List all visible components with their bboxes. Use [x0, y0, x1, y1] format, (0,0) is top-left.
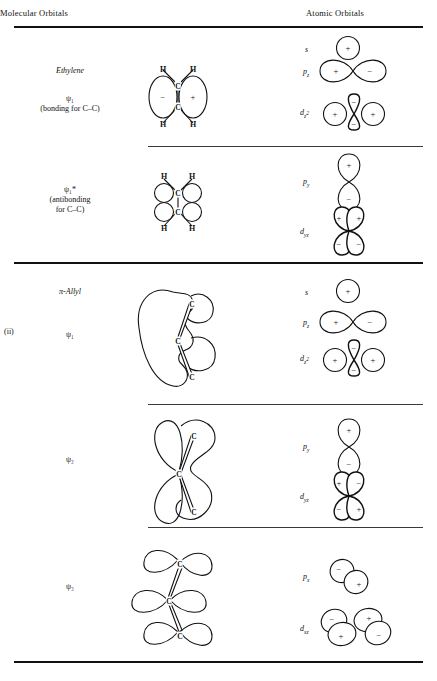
- row-ethylene-psi-label: ψ₁: [14, 94, 126, 105]
- rule-bottom: [14, 661, 423, 663]
- rule-section-ii: [14, 262, 423, 264]
- ao-subscript: xz: [304, 629, 309, 635]
- row-ethylene-psi-sublabel: (bonding for C–C): [8, 104, 132, 115]
- mo-allyl-psi1-diagram: C C C: [133, 278, 223, 396]
- ao-label-dxz: dxz: [300, 624, 309, 635]
- ao-dyz-orbital: + − − +: [320, 471, 378, 521]
- atom-label-h: H: [190, 120, 196, 129]
- ao-subscript: z2: [304, 359, 309, 365]
- orbital-sign: +: [357, 580, 362, 589]
- atom-label-c: C: [177, 560, 183, 569]
- row-ethylene-title: Ethylene: [30, 66, 110, 77]
- orbital-sign: −: [352, 366, 357, 375]
- orbital-sign: −: [352, 120, 357, 129]
- orbital-sign: −: [368, 67, 373, 76]
- ao-label-py: py: [303, 177, 309, 188]
- ao-label-pz: pz: [303, 318, 309, 329]
- ao-subscript: z2: [304, 113, 309, 119]
- orbital-sign: −: [357, 240, 362, 249]
- atom-label-h: H: [189, 224, 195, 233]
- ao-label-px: px: [303, 572, 309, 583]
- orbital-sign: −: [337, 240, 342, 249]
- section-marker: (ii): [4, 327, 14, 338]
- ao-label-s: s: [305, 45, 308, 54]
- ao-py-orbital: + −: [327, 152, 371, 212]
- rule-top: [14, 26, 423, 28]
- orbital-sign: +: [334, 67, 339, 76]
- atom-label-c: C: [191, 508, 197, 517]
- orbital-sign: −: [368, 318, 373, 327]
- ao-subscript: z: [307, 72, 309, 78]
- ao-px-orbital: − +: [322, 556, 378, 598]
- atom-label-h: H: [189, 172, 195, 181]
- atom-label-c: C: [176, 470, 182, 479]
- rule-row3-row4: [148, 404, 423, 405]
- orbital-sign: −: [352, 98, 357, 107]
- orbital-sign: −: [352, 344, 357, 353]
- orbital-sign: +: [334, 318, 339, 327]
- orbital-sign: +: [371, 356, 376, 365]
- column-headers: Molecular Orbitals Atomic Orbitals: [0, 8, 437, 24]
- atom-label-c: C: [175, 103, 181, 112]
- row-allyl-title: π-Allyl: [30, 287, 110, 298]
- ao-pz-orbital: + −: [318, 309, 388, 335]
- atom-label-c: C: [166, 597, 172, 606]
- orbital-sign: +: [339, 632, 344, 641]
- atom-label-c: C: [175, 208, 181, 217]
- atom-label-c: C: [189, 300, 195, 309]
- ao-label-py: py: [303, 442, 309, 453]
- ao-name: s: [305, 45, 308, 54]
- orbital-sign: −: [347, 460, 352, 469]
- row-allyl-psi1-label: ψ₁: [30, 330, 110, 341]
- atom-label-h: H: [161, 172, 167, 181]
- ao-label-dyz: dyz: [300, 227, 309, 238]
- orbital-sign: +: [337, 479, 342, 488]
- mo-ethylene-psi1-star-diagram: H H C C H H: [145, 166, 211, 238]
- orbital-sign: −: [377, 631, 382, 640]
- ao-py-orbital: + −: [327, 417, 371, 477]
- atom-label-c: C: [175, 82, 181, 91]
- orbital-sign: +: [337, 214, 342, 223]
- ao-subscript: x: [307, 577, 309, 583]
- ao-subscript: y: [307, 447, 309, 453]
- row-ethylene-star-sublabel-2: for C–C): [14, 205, 126, 216]
- ao-pz-orbital: + −: [318, 58, 388, 84]
- ao-dyz-orbital: + + − −: [320, 206, 378, 256]
- row-ethylene-star-psi-label: ψ₁*: [14, 185, 126, 196]
- orbital-sign: +: [333, 356, 338, 365]
- rule-row1-row2: [148, 146, 423, 147]
- atom-label-c: C: [175, 189, 181, 198]
- orbital-sign: +: [191, 93, 196, 102]
- row-ethylene-star-sublabel-1: (antibonding: [14, 195, 126, 206]
- ao-subscript: yz: [304, 232, 309, 238]
- orbital-sign: +: [347, 426, 352, 435]
- orbital-sign: −: [161, 93, 166, 102]
- atom-label-c: C: [191, 432, 197, 441]
- mo-ethylene-psi1-diagram: H H C C H H − +: [143, 58, 213, 136]
- ao-subscript: yz: [304, 497, 309, 503]
- ao-subscript: z: [307, 323, 309, 329]
- atom-label-c: C: [189, 373, 195, 382]
- orbital-sign: +: [357, 214, 362, 223]
- atom-label-c: C: [175, 337, 181, 346]
- ao-dz2-orbital: + − + −: [318, 96, 390, 126]
- ao-label-dz2: dz2: [300, 108, 309, 119]
- row-allyl-psi3-label: ψ₃: [30, 582, 110, 593]
- atom-label-h: H: [160, 120, 166, 129]
- orbital-sign: +: [347, 161, 352, 170]
- orbital-sign: +: [346, 44, 351, 53]
- ao-label-dyz: dyz: [300, 492, 309, 503]
- ao-s-orbital: +: [325, 36, 371, 60]
- atom-label-h: H: [160, 65, 166, 74]
- orbital-sign: +: [346, 287, 351, 296]
- orbital-sign: +: [367, 614, 372, 623]
- atom-label-h: H: [190, 65, 196, 74]
- mo-allyl-psi2-diagram: C C C: [133, 412, 225, 530]
- orbital-sign: +: [357, 505, 362, 514]
- ao-dxz-orbital: − + + −: [315, 604, 397, 652]
- ao-label-pz: pz: [303, 67, 309, 78]
- ao-name: s: [305, 288, 308, 297]
- orbital-sign: −: [330, 615, 335, 624]
- ao-label-dz2: dz2: [300, 354, 309, 365]
- ao-subscript: y: [307, 182, 309, 188]
